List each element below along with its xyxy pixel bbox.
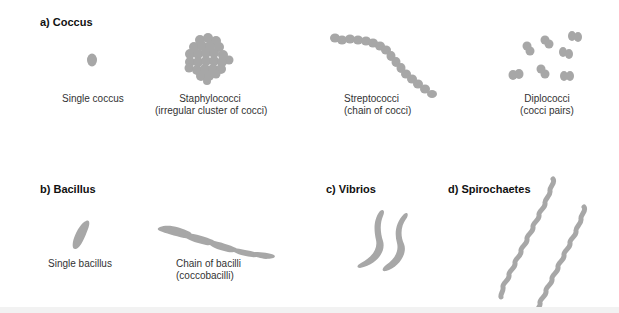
single-bacillus-shape [73,221,90,250]
label-line: (cocci pairs) [512,105,582,117]
label-line: (chain of cocci) [344,105,411,117]
label-line: Single coccus [62,93,124,105]
label-staphylococci: Staphylococci (irregular cluster of cocc… [155,93,265,117]
label-line: (irregular cluster of cocci) [155,105,265,117]
label-single-bacillus: Single bacillus [48,258,112,270]
chain-of-bacilli-shape [158,226,275,259]
diplococci-pairs-shape [509,31,583,81]
label-line: Diplococci [512,93,582,105]
streptococci-chain-shape [330,34,437,99]
label-single-coccus: Single coccus [62,93,124,105]
label-line: Staphylococci [155,93,265,105]
vibrio-shape-1 [357,210,384,268]
spirochaetes-shape [501,179,585,310]
label-line: Single bacillus [48,258,112,270]
label-line: Chain of bacilli [176,258,241,270]
label-line: (coccobacilli) [176,270,241,282]
vibrio-shape-2 [383,213,408,271]
single-coccus-shape [87,54,97,67]
staphylococci-cluster-shape [185,33,234,85]
label-line: Streptococci [344,93,411,105]
label-diplococci: Diplococci (cocci pairs) [512,93,582,117]
bottom-border-band [0,307,619,313]
label-streptococci: Streptococci (chain of cocci) [344,93,411,117]
label-chain-of-bacilli: Chain of bacilli (coccobacilli) [176,258,241,282]
